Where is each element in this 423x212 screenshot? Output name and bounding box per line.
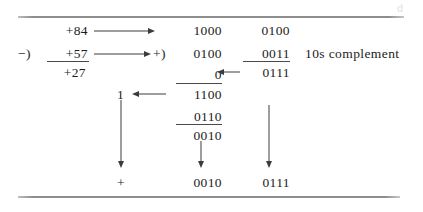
- result-sign: +: [117, 176, 125, 190]
- binary-row2-middle: 0100: [160, 47, 222, 61]
- binary-row5-middle: 0110: [160, 110, 222, 124]
- binary-row6-middle: 0010: [160, 129, 222, 143]
- decimal-operation-rule: [47, 61, 89, 62]
- arithmetic-figure: d +84 −) +57 +27 +) 1000 0100 0 1100 011…: [0, 0, 423, 212]
- binary-row4-middle: 1100: [160, 88, 222, 102]
- binary-middle-rule-2: [176, 124, 222, 125]
- arrow-minuend-to-binary: [94, 26, 154, 35]
- binary-middle-rule-1: [176, 83, 222, 84]
- bottom-divider-rule: [18, 196, 400, 198]
- page-watermark: d: [397, 2, 403, 14]
- arrow-down-middle-to-result: [196, 141, 205, 167]
- ten-s-complement-label: 10s complement: [305, 47, 399, 61]
- arrow-carry-middle-to-left: [133, 89, 166, 98]
- decimal-result: +27: [10, 66, 86, 80]
- binary-right-rule-1: [243, 61, 290, 62]
- arrow-down-right-to-result: [264, 105, 273, 167]
- arrow-subtrahend-to-binary: [94, 49, 150, 58]
- binary-row2-right: 0011: [228, 47, 290, 61]
- decimal-minuend: +84: [10, 24, 88, 38]
- arrow-down-carry-to-sign: [116, 100, 125, 167]
- result-right-digits: 0111: [228, 176, 290, 190]
- result-middle-digits: 0010: [160, 176, 222, 190]
- arrow-carry-right-to-middle: [218, 67, 240, 76]
- binary-row1-middle: 1000: [160, 24, 222, 38]
- binary-row3-middle-carry: 0: [160, 68, 222, 82]
- decimal-subtrahend: +57: [10, 47, 88, 61]
- top-divider-rule: [18, 16, 404, 18]
- binary-row1-right: 0100: [228, 24, 290, 38]
